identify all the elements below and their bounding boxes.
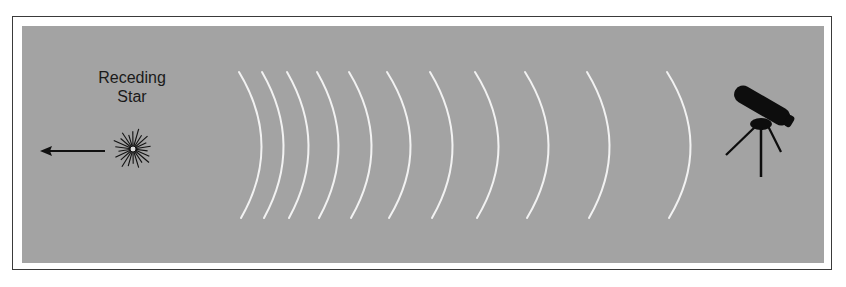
light-wavefronts (239, 72, 691, 218)
wavefront-arc (287, 72, 309, 218)
arrow-left-icon (40, 146, 105, 156)
wavefront-arc (525, 72, 549, 218)
wavefront-arc (239, 72, 262, 218)
wavefront-arc (475, 72, 499, 218)
wavefront-arc (317, 72, 339, 218)
wavefront-arc (667, 72, 691, 218)
wavefront-arc (387, 72, 411, 218)
wavefront-arc (349, 72, 372, 218)
diagram-artwork (0, 0, 846, 287)
wavefront-arc (587, 72, 610, 218)
telescope-icon (726, 82, 797, 177)
wavefront-arc (262, 72, 284, 218)
wavefront-arc (430, 72, 453, 218)
star-burst-icon (114, 129, 151, 168)
